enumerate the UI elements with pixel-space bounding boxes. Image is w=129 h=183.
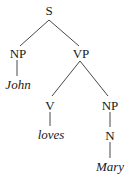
node-np-object: NP bbox=[102, 99, 119, 112]
node-np-subject: NP bbox=[10, 47, 27, 60]
node-vp: VP bbox=[73, 47, 90, 60]
edge-vp-v bbox=[52, 61, 80, 96]
node-v: V bbox=[45, 99, 54, 112]
edge-vp-np bbox=[80, 61, 108, 96]
node-s: S bbox=[45, 4, 52, 17]
syntax-tree-diagram: S NP John VP V loves NP N Mary bbox=[0, 0, 129, 183]
leaf-mary: Mary bbox=[96, 160, 124, 173]
leaf-loves: loves bbox=[38, 128, 65, 141]
node-n: N bbox=[105, 129, 114, 142]
leaf-john: John bbox=[5, 78, 30, 91]
edge-s-vp bbox=[49, 20, 79, 46]
edge-s-np bbox=[20, 20, 49, 46]
